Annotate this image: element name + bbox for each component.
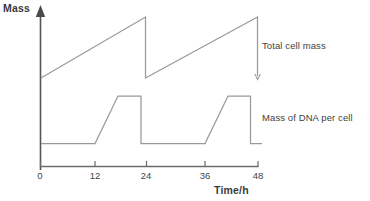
x-tick-label-12: 12 (83, 170, 107, 181)
y-axis-title: Mass (3, 2, 30, 14)
plot-area (0, 0, 370, 201)
x-tick-label-48: 48 (246, 170, 270, 181)
y-axis-arrow-icon (36, 5, 45, 17)
x-tick-label-0: 0 (28, 170, 52, 181)
series-label-dna-per-cell: Mass of DNA per cell (262, 112, 353, 123)
x-axis-title: Time/h (214, 184, 249, 196)
series-total-cell-mass (41, 17, 258, 78)
x-tick-label-36: 36 (193, 170, 217, 181)
x-tick-label-24: 24 (134, 170, 158, 181)
cell-cycle-chart: Mass Time/h 0 12 24 36 48 Total cell mas… (0, 0, 370, 201)
series-label-total-cell-mass: Total cell mass (262, 40, 326, 51)
series-dna-per-cell (41, 96, 262, 144)
